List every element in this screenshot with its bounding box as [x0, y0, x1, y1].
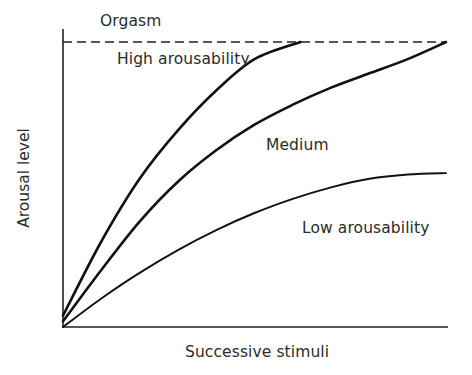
y-axis-label: Arousal level: [15, 128, 33, 228]
orgasm-label: Orgasm: [100, 12, 161, 30]
medium-curve: [63, 42, 446, 321]
medium-label: Medium: [266, 136, 329, 154]
x-axis-label: Successive stimuli: [185, 343, 329, 361]
low-arousability-curve: [63, 173, 446, 327]
series-group: [63, 42, 446, 327]
high-arousability-label: High arousability: [117, 50, 250, 68]
low-arousability-label: Low arousability: [302, 219, 429, 237]
